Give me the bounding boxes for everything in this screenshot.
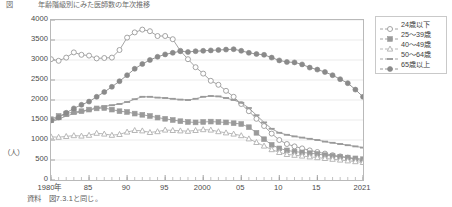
data-point-marker [79, 102, 84, 107]
data-point-marker [284, 60, 289, 65]
data-point-marker [238, 102, 244, 104]
data-point-marker [71, 106, 76, 111]
data-point-marker [71, 113, 77, 115]
data-point-marker [132, 98, 138, 100]
data-point-marker [224, 47, 229, 52]
data-point-marker [140, 27, 145, 32]
data-point-marker [51, 134, 54, 139]
data-point-marker [360, 147, 363, 149]
data-point-marker [200, 127, 205, 132]
data-point-marker [208, 48, 213, 53]
data-point-marker [208, 95, 214, 97]
data-point-marker [388, 67, 393, 72]
data-point-marker [102, 90, 107, 95]
data-point-marker [193, 98, 199, 100]
data-point-marker [262, 137, 267, 142]
data-point-marker [155, 34, 160, 39]
data-point-marker [269, 128, 275, 130]
data-point-marker [170, 98, 176, 100]
data-point-marker [155, 54, 160, 59]
data-point-marker [185, 50, 190, 55]
y-axis-tick-label: 1500 [31, 115, 48, 123]
legend-marker-icon [379, 50, 401, 60]
data-point-marker [117, 48, 122, 53]
data-point-marker [51, 118, 54, 123]
y-axis-tick-label: 0 [44, 175, 48, 183]
data-point-marker [345, 81, 350, 86]
data-point-marker [117, 109, 122, 114]
data-point-marker [352, 146, 358, 148]
data-point-marker [125, 35, 130, 40]
data-point-marker [185, 57, 190, 62]
data-point-marker [163, 52, 168, 57]
y-axis-tick-label: 2000 [31, 95, 48, 103]
data-point-marker [254, 52, 259, 57]
data-point-marker [125, 110, 130, 115]
data-point-marker [87, 99, 92, 104]
x-axis-tick-label: 10 [274, 183, 282, 192]
data-point-marker [224, 120, 229, 125]
data-point-marker [56, 58, 61, 63]
y-axis: 05001000150020002500300035004000 [16, 0, 48, 207]
data-point-marker [353, 87, 358, 92]
data-point-marker [163, 116, 168, 121]
data-point-marker [246, 107, 252, 109]
data-point-marker [94, 107, 100, 109]
data-point-marker [140, 112, 145, 117]
data-point-marker [56, 115, 61, 120]
data-point-marker [239, 48, 244, 53]
legend-item-4[interactable]: 65歳以上 [379, 60, 444, 70]
data-point-marker [147, 96, 153, 98]
data-point-marker [162, 97, 168, 99]
data-point-marker [253, 114, 259, 116]
data-point-marker [200, 96, 206, 98]
data-point-marker [239, 122, 244, 127]
data-point-marker [314, 139, 320, 141]
data-point-marker [185, 99, 191, 101]
x-axis-tick-label: 1980年 [38, 183, 63, 192]
data-point-marker [155, 115, 160, 120]
x-axis-tick-label: 15 [312, 183, 320, 192]
data-point-marker [132, 111, 137, 116]
data-point-marker [186, 120, 191, 125]
y-axis-tick-label: 500 [35, 155, 48, 163]
x-axis-tick-label: 05 [236, 183, 244, 192]
data-point-marker [201, 71, 206, 76]
data-point-marker [345, 144, 351, 146]
data-point-marker [231, 94, 236, 99]
data-point-marker [170, 37, 175, 42]
data-point-marker [361, 94, 364, 99]
data-point-marker [246, 125, 251, 130]
data-point-marker [201, 48, 206, 53]
data-point-marker [148, 114, 153, 119]
legend-label: 24歳以下 [401, 20, 430, 30]
data-point-marker [330, 73, 335, 78]
legend-item-1[interactable]: 25〜39歳 [379, 30, 444, 40]
legend-item-2[interactable]: 40〜49歳 [379, 40, 444, 50]
data-point-marker [262, 52, 267, 57]
chart-legend: 24歳以下25〜39歳40〜49歳50〜64歳65歳以上 [375, 16, 447, 74]
data-point-marker [284, 142, 289, 147]
x-axis-tick-label: 2000 [194, 183, 211, 192]
data-point-marker [125, 73, 130, 78]
legend-label: 50〜64歳 [401, 50, 431, 60]
data-point-marker [315, 67, 320, 72]
legend-item-0[interactable]: 24歳以下 [379, 20, 444, 30]
data-point-marker [132, 66, 137, 71]
data-point-marker [71, 133, 76, 138]
data-point-marker [147, 58, 152, 63]
data-point-marker [177, 99, 183, 101]
legend-item-3[interactable]: 50〜64歳 [379, 50, 444, 60]
data-point-marker [277, 58, 282, 63]
data-point-marker [79, 52, 84, 57]
data-point-marker [163, 34, 168, 39]
data-point-marker [64, 55, 69, 60]
y-axis-tick-label: 3500 [31, 35, 48, 43]
data-point-marker [51, 57, 54, 62]
data-point-marker [109, 107, 114, 112]
data-point-marker [201, 120, 206, 125]
data-point-marker [322, 141, 328, 143]
legend-label: 25〜39歳 [401, 30, 431, 40]
data-point-marker [223, 97, 229, 99]
data-point-marker [132, 128, 137, 133]
